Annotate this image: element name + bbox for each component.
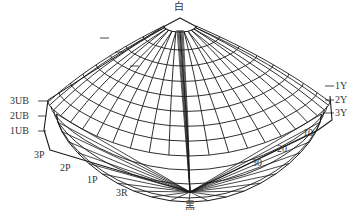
left-outline bbox=[44, 100, 190, 192]
label-black: 黑 bbox=[185, 201, 195, 211]
meridian-line bbox=[61, 29, 166, 116]
label-white: 白 bbox=[174, 2, 184, 12]
label-3y: 3Y bbox=[335, 108, 347, 118]
meridian-line bbox=[196, 28, 325, 110]
meridian-line bbox=[169, 32, 176, 155]
label-3p: 3P bbox=[34, 150, 45, 160]
label-20: 20 bbox=[277, 144, 287, 154]
label-2y: 2Y bbox=[335, 95, 347, 105]
lower-meridian bbox=[78, 153, 191, 192]
label-10: 10 bbox=[303, 128, 313, 138]
label-3ub: 3UB bbox=[10, 96, 29, 106]
label-2p: 2P bbox=[60, 163, 71, 173]
lower-meridian bbox=[58, 122, 190, 192]
mesh-drawing bbox=[0, 0, 357, 216]
lower-meridian bbox=[190, 153, 301, 192]
label-2ub: 2UB bbox=[10, 111, 29, 121]
color-solid-diagram: 白 黑 3UB 2UB 1UB 3P 2P 1P 3R 1Y 2Y 3Y 10 … bbox=[0, 0, 357, 216]
label-1y: 1Y bbox=[335, 81, 347, 91]
label-3r: 3R bbox=[116, 188, 128, 198]
cap-top bbox=[163, 18, 197, 27]
label-1ub: 1UB bbox=[10, 126, 29, 136]
meridian-line bbox=[194, 29, 308, 122]
label-1p: 1P bbox=[87, 175, 98, 185]
label-30: 30 bbox=[252, 158, 262, 168]
left-edge bbox=[48, 26, 164, 100]
